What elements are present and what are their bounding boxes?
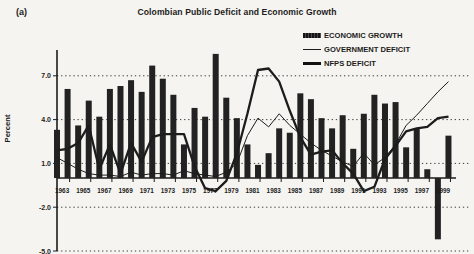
bar-1970: [128, 80, 134, 178]
bar-1997: [414, 128, 420, 178]
bar-1973: [160, 79, 166, 178]
x-tick-label: 1989: [330, 187, 345, 194]
x-tick-label: 1981: [245, 187, 260, 194]
x-tick-label: 1965: [76, 187, 91, 194]
bar-1974: [170, 95, 176, 178]
bar-1981: [244, 144, 250, 178]
x-tick-label: 1973: [161, 187, 176, 194]
bar-1971: [139, 92, 145, 178]
x-tick-label: 1969: [118, 187, 133, 194]
x-tick-label: 1995: [394, 187, 409, 194]
bar-1996: [403, 147, 409, 178]
chart-plot: 7.04.01.0-2.0-5.019631965196719691971197…: [0, 0, 474, 254]
y-tick-label: 1.0: [41, 160, 51, 167]
bar-1978: [213, 54, 219, 178]
y-tick-label: -2.0: [39, 204, 51, 211]
bar-1963: [54, 130, 60, 178]
bar-1990: [340, 115, 346, 178]
bar-1966: [86, 101, 92, 178]
bar-1988: [319, 118, 325, 178]
bar-1968: [107, 89, 113, 178]
x-tick-label: 1999: [436, 187, 451, 194]
x-tick-label: 1963: [55, 187, 70, 194]
x-tick-label: 1975: [182, 187, 197, 194]
chart-panel: (a) Colombian Public Deficit and Economi…: [0, 0, 474, 254]
y-tick-label: 7.0: [41, 72, 51, 79]
x-tick-label: 1979: [224, 187, 239, 194]
bar-1984: [276, 128, 282, 178]
nfps-deficit-line: [57, 69, 449, 192]
bar-1975: [181, 144, 187, 178]
y-tick-label: 4.0: [41, 116, 51, 123]
bar-1993: [371, 95, 377, 178]
x-tick-label: 1983: [267, 187, 282, 194]
bar-1985: [287, 133, 293, 178]
x-tick-label: 1987: [309, 187, 324, 194]
bar-1998: [424, 169, 430, 178]
x-tick-label: 1993: [372, 187, 387, 194]
bar-1983: [266, 153, 272, 178]
y-tick-label: -5.0: [39, 248, 51, 254]
bar-1972: [149, 66, 155, 178]
x-tick-label: 1967: [97, 187, 112, 194]
x-tick-label: 1997: [415, 187, 430, 194]
bar-1987: [308, 99, 314, 178]
bar-2000: [445, 136, 451, 178]
bar-1982: [255, 165, 261, 178]
x-tick-label: 1985: [288, 187, 303, 194]
bar-1977: [202, 117, 208, 178]
bar-1979: [223, 98, 229, 178]
x-tick-label: 1971: [140, 187, 155, 194]
bar-1992: [361, 114, 367, 178]
